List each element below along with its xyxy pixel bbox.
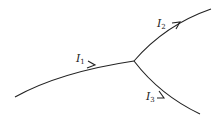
label-i2: I2: [157, 18, 166, 31]
wire-i3: [134, 61, 200, 114]
junction-wires: [0, 0, 219, 120]
wire-i2: [134, 9, 211, 61]
junction-diagram: I1 I2 I3: [0, 0, 219, 120]
label-i3: I3: [146, 91, 155, 104]
arrow-i3-icon: [157, 91, 164, 98]
wire-i1: [15, 61, 134, 97]
arrow-i1-icon: [87, 61, 95, 68]
label-i1: I1: [76, 53, 85, 66]
